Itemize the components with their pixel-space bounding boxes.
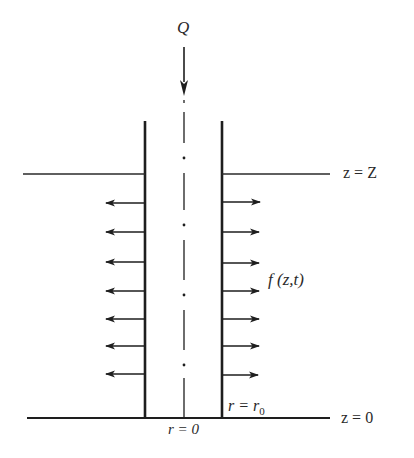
inflow-label: Q xyxy=(177,18,189,38)
wall-radius-subscript: 0 xyxy=(259,405,265,417)
wall-radius-label: r = r0 xyxy=(228,397,265,417)
right-outflow-arrows xyxy=(222,202,260,375)
bottom-level-label: z = 0 xyxy=(341,409,373,427)
diagram-canvas xyxy=(0,0,414,458)
left-outflow-arrows xyxy=(106,203,145,374)
inflow-arrow-icon xyxy=(180,47,188,96)
top-level-label: z = Z xyxy=(343,164,377,182)
lateral-flux-label: f (z,t) xyxy=(268,270,304,290)
wall-radius-text: r = r xyxy=(228,397,259,414)
axis-radius-label: r = 0 xyxy=(168,421,199,438)
pipe-flow-diagram: Q z = Z z = 0 f (z,t) r = r0 r = 0 xyxy=(0,0,414,458)
